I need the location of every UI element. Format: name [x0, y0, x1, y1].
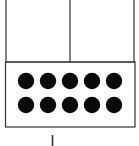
counter-dot	[40, 97, 56, 113]
dots	[18, 73, 122, 113]
counter-dot	[106, 73, 122, 89]
counter-dot	[62, 73, 78, 89]
counter-dot	[62, 97, 78, 113]
counter-dot	[18, 97, 34, 113]
counter-dot	[18, 73, 34, 89]
dot-box	[6, 62, 136, 127]
counter-dot	[84, 73, 100, 89]
counter-dot	[84, 97, 100, 113]
counter-dot	[106, 97, 122, 113]
counter-dot	[40, 73, 56, 89]
top-boxes	[6, 0, 135, 62]
ten-frame-diagram	[0, 0, 139, 146]
